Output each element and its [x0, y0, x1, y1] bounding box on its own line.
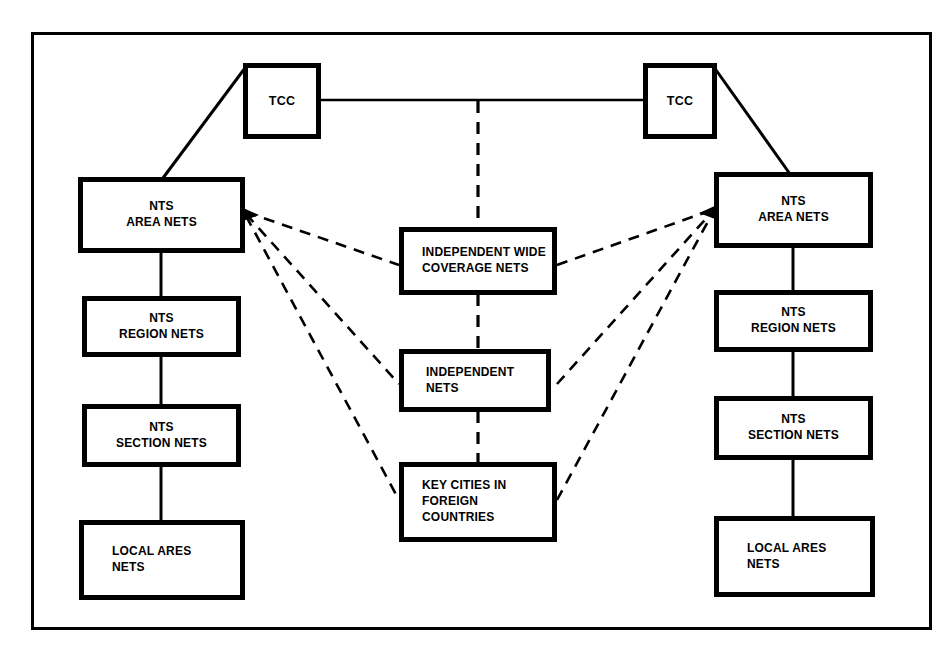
node-left-region-nets[interactable]: NTS REGION NETS [82, 296, 241, 357]
node-left-local-ares-nets[interactable]: LOCAL ARES NETS [79, 520, 245, 600]
node-key-cities-foreign-countries[interactable]: KEY CITIES IN FOREIGN COUNTRIES [399, 462, 557, 542]
node-left-local-ares-nets-label: LOCAL ARES NETS [84, 544, 195, 576]
node-right-area-nets-label: NTS AREA NETS [754, 194, 833, 226]
node-tcc-left-label: TCC [265, 93, 299, 110]
diagram-canvas: TCC TCC NTS AREA NETS NTS REGION NETS NT… [0, 0, 947, 659]
node-right-region-nets-label: NTS REGION NETS [747, 305, 840, 337]
node-tcc-left[interactable]: TCC [243, 63, 321, 139]
node-right-local-ares-nets[interactable]: LOCAL ARES NETS [714, 516, 875, 597]
node-key-cities-foreign-countries-label: KEY CITIES IN FOREIGN COUNTRIES [404, 478, 552, 525]
node-left-region-nets-label: NTS REGION NETS [115, 311, 208, 343]
node-right-local-ares-nets-label: LOCAL ARES NETS [719, 541, 830, 573]
node-left-area-nets-label: NTS AREA NETS [122, 199, 201, 231]
node-left-area-nets[interactable]: NTS AREA NETS [78, 177, 245, 253]
node-independent-wide-coverage-nets-label: INDEPENDENT WIDE COVERAGE NETS [404, 245, 550, 277]
node-independent-wide-coverage-nets[interactable]: INDEPENDENT WIDE COVERAGE NETS [399, 227, 557, 295]
node-left-section-nets[interactable]: NTS SECTION NETS [82, 404, 241, 467]
node-right-section-nets-label: NTS SECTION NETS [744, 412, 843, 444]
node-independent-nets-label: INDEPENDENT NETS [404, 365, 546, 397]
node-right-section-nets[interactable]: NTS SECTION NETS [714, 396, 873, 460]
node-left-section-nets-label: NTS SECTION NETS [112, 420, 211, 452]
node-independent-nets[interactable]: INDEPENDENT NETS [399, 349, 551, 412]
node-right-region-nets[interactable]: NTS REGION NETS [714, 290, 873, 352]
node-right-area-nets[interactable]: NTS AREA NETS [714, 172, 873, 248]
node-tcc-right[interactable]: TCC [643, 63, 717, 139]
node-tcc-right-label: TCC [663, 93, 697, 110]
